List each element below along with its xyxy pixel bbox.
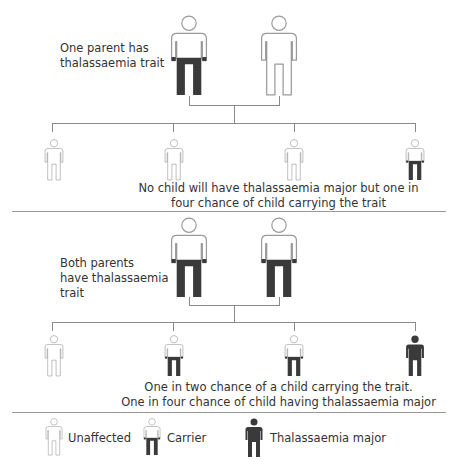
connector bbox=[294, 322, 295, 331]
legend-label-unaffected: Unaffected bbox=[68, 431, 131, 445]
child-unaffected-icon bbox=[43, 335, 65, 377]
legend-label-carrier: Carrier bbox=[167, 431, 206, 445]
section2-label-line-1: Both parents bbox=[60, 256, 169, 271]
section1-label-line-1: One parent has bbox=[60, 41, 164, 56]
section2-caption-line-1: One in two chance of a child carrying th… bbox=[100, 380, 457, 395]
child-unaffected-icon bbox=[283, 139, 305, 181]
connector bbox=[52, 322, 416, 323]
connector bbox=[415, 322, 416, 331]
connector bbox=[279, 96, 280, 105]
section2-label-line-3: trait bbox=[60, 286, 169, 301]
connector bbox=[189, 96, 190, 105]
parent-carrier-icon bbox=[166, 15, 212, 97]
connector bbox=[52, 123, 416, 124]
connector bbox=[234, 105, 235, 123]
section1-caption-line-2: four chance of child carrying the trait bbox=[100, 196, 457, 211]
section2-label: Both parents have thalassaemia trait bbox=[60, 256, 169, 301]
connector bbox=[173, 322, 174, 331]
section2-caption: One in two chance of a child carrying th… bbox=[100, 380, 457, 410]
child-major-icon bbox=[404, 335, 426, 377]
child-unaffected-icon bbox=[163, 139, 185, 181]
parent-carrier-icon bbox=[166, 217, 212, 299]
person-outline-icon bbox=[44, 418, 64, 456]
connector bbox=[189, 297, 190, 305]
section1-caption: No child will have thalassaemia major bu… bbox=[100, 181, 457, 211]
connector bbox=[52, 123, 53, 132]
connector bbox=[279, 297, 280, 305]
child-unaffected-icon bbox=[43, 139, 65, 181]
section1-label-line-2: thalassaemia trait bbox=[60, 56, 164, 71]
section2-caption-line-2: One in four chance of child having thala… bbox=[100, 395, 457, 410]
connector bbox=[234, 305, 235, 322]
connector bbox=[294, 123, 295, 132]
section1-label: One parent has thalassaemia trait bbox=[60, 41, 164, 71]
connector bbox=[415, 123, 416, 132]
legend-label-major: Thalassaemia major bbox=[270, 431, 386, 445]
child-carrier-icon bbox=[404, 139, 426, 181]
person-carrier-icon bbox=[142, 418, 162, 456]
child-carrier-icon bbox=[163, 335, 185, 377]
section1-caption-line-1: No child will have thalassaemia major bu… bbox=[100, 181, 457, 196]
connector bbox=[173, 123, 174, 132]
legend-divider bbox=[12, 412, 446, 413]
connector bbox=[52, 322, 53, 331]
child-carrier-icon bbox=[283, 335, 305, 377]
section-divider bbox=[12, 211, 446, 212]
person-filled-icon bbox=[243, 418, 265, 458]
parent-carrier-icon bbox=[256, 217, 302, 299]
parent-unaffected-icon bbox=[256, 15, 302, 97]
section2-label-line-2: have thalassaemia bbox=[60, 271, 169, 286]
